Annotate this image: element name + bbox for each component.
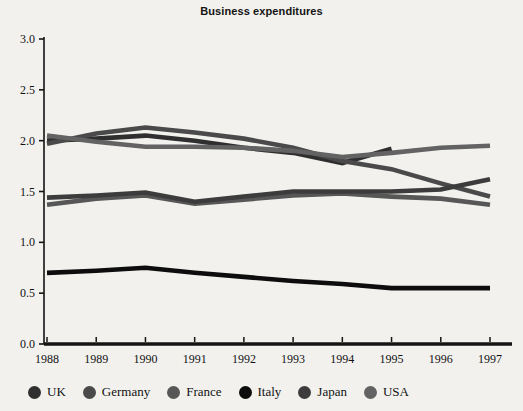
- legend-label: Italy: [258, 384, 282, 400]
- chart-legend: UKGermanyFranceItalyJapanUSA: [28, 384, 426, 400]
- legend-marker-icon: [28, 386, 41, 399]
- y-tick-label: 3.0: [20, 32, 35, 46]
- legend-marker-icon: [83, 386, 96, 399]
- y-tick-label: 0.0: [20, 337, 35, 351]
- legend-item-japan[interactable]: Japan: [298, 384, 347, 400]
- legend-label: UK: [47, 384, 66, 400]
- y-tick-label: 1.5: [20, 185, 35, 199]
- x-tick-label: 1992: [232, 352, 256, 366]
- legend-label: USA: [383, 384, 409, 400]
- x-axis: 1988198919901991199219931994199519961997: [35, 337, 512, 366]
- legend-marker-icon: [298, 386, 311, 399]
- legend-marker-icon: [364, 386, 377, 399]
- legend-item-germany[interactable]: Germany: [83, 384, 150, 400]
- chart-figure: Business expenditures 0.00.51.01.52.02.5…: [0, 0, 523, 411]
- x-tick-label: 1995: [380, 352, 404, 366]
- series-line-italy: [47, 268, 490, 288]
- y-axis: 0.00.51.01.52.02.53.0: [20, 32, 44, 351]
- legend-marker-icon: [167, 386, 180, 399]
- legend-item-usa[interactable]: USA: [364, 384, 409, 400]
- x-tick-label: 1994: [330, 352, 354, 366]
- legend-label: Japan: [317, 384, 347, 400]
- legend-label: France: [186, 384, 221, 400]
- x-tick-label: 1996: [429, 352, 453, 366]
- legend-marker-icon: [239, 386, 252, 399]
- x-tick-label: 1989: [84, 352, 108, 366]
- x-tick-label: 1991: [183, 352, 207, 366]
- y-tick-label: 1.0: [20, 235, 35, 249]
- y-tick-label: 0.5: [20, 286, 35, 300]
- legend-label: Germany: [102, 384, 150, 400]
- y-tick-label: 2.0: [20, 134, 35, 148]
- x-tick-label: 1997: [478, 352, 502, 366]
- series-lines: [47, 127, 490, 288]
- line-chart-plot: 0.00.51.01.52.02.53.0 198819891990199119…: [0, 0, 523, 380]
- x-tick-label: 1990: [133, 352, 157, 366]
- legend-item-uk[interactable]: UK: [28, 384, 66, 400]
- legend-item-italy[interactable]: Italy: [239, 384, 282, 400]
- x-tick-label: 1993: [281, 352, 305, 366]
- legend-item-france[interactable]: France: [167, 384, 221, 400]
- x-tick-label: 1988: [35, 352, 59, 366]
- y-tick-label: 2.5: [20, 83, 35, 97]
